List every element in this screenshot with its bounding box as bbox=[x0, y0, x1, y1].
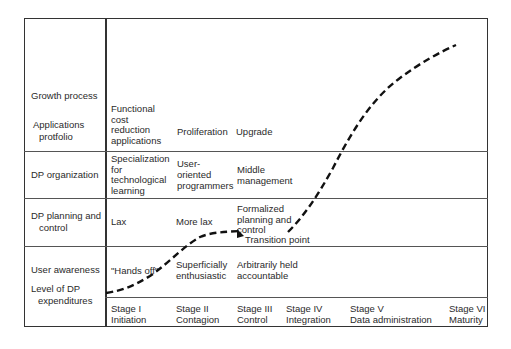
transition-arrow-icon bbox=[237, 229, 244, 238]
growth-curve bbox=[0, 0, 511, 349]
